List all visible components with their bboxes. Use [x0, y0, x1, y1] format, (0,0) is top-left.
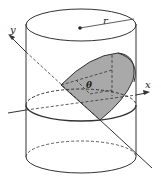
- cylinder-bottom-front: [26, 157, 136, 173]
- x-axis-label: x: [145, 79, 151, 90]
- y-axis-label: y: [9, 24, 16, 35]
- x-axis-arrowhead: [143, 90, 150, 95]
- cylinder-top-ellipse: [26, 9, 136, 41]
- x-axis-outer-left: [8, 110, 26, 113]
- cylinder-wedge-diagram: r θ x y: [0, 0, 161, 181]
- y-axis-lower: [100, 120, 152, 168]
- wedge-region: [61, 53, 134, 120]
- cylinder-bottom-back: [26, 141, 136, 157]
- angle-label: θ: [86, 80, 92, 90]
- y-axis-outer: [12, 38, 26, 52]
- radius-label: r: [103, 15, 109, 26]
